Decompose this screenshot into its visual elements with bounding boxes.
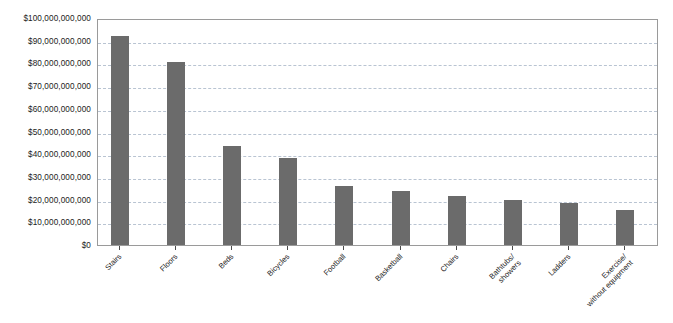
- x-tick: [400, 246, 401, 250]
- x-tick: [343, 246, 344, 250]
- x-tick: [624, 246, 625, 250]
- bar: [279, 158, 297, 245]
- x-tick-label: Football: [322, 252, 348, 278]
- y-tick-label: $100,000,000,000: [23, 15, 91, 23]
- y-axis: $100,000,000,000$90,000,000,000$80,000,0…: [0, 0, 95, 323]
- x-tick: [568, 246, 569, 250]
- y-tick-label: $60,000,000,000: [28, 106, 91, 114]
- bar: [392, 191, 410, 245]
- bar: [167, 62, 185, 245]
- y-tick-label: $90,000,000,000: [28, 38, 91, 46]
- y-tick-label: $20,000,000,000: [28, 196, 91, 204]
- x-tick: [231, 246, 232, 250]
- y-tick-label: $50,000,000,000: [28, 128, 91, 136]
- x-tick-label: Chairs: [438, 252, 460, 274]
- x-tick-label: Floors: [158, 252, 180, 274]
- x-tick-label: Beds: [217, 252, 236, 271]
- bar: [223, 146, 241, 245]
- bar: [616, 210, 634, 245]
- x-tick-label: Stairs: [103, 252, 123, 272]
- x-axis: StairsFloorsBedsBicyclesFootballBasketba…: [97, 246, 658, 323]
- x-tick-label: Exercise/ without equipment: [578, 252, 635, 309]
- bars: [98, 20, 657, 245]
- x-tick-label: Bicycles: [266, 252, 292, 278]
- x-tick-label: Basketball: [373, 252, 404, 283]
- x-tick-label: Ladders: [546, 252, 572, 278]
- x-tick: [512, 246, 513, 250]
- y-tick-label: $0: [82, 242, 91, 250]
- bar: [448, 196, 466, 245]
- y-tick-label: $30,000,000,000: [28, 174, 91, 182]
- y-tick-label: $80,000,000,000: [28, 60, 91, 68]
- bar: [335, 186, 353, 245]
- bar: [504, 200, 522, 245]
- plot-area: [97, 19, 658, 246]
- y-tick-label: $10,000,000,000: [28, 219, 91, 227]
- x-tick: [119, 246, 120, 250]
- y-tick-label: $70,000,000,000: [28, 83, 91, 91]
- bar-chart: $100,000,000,000$90,000,000,000$80,000,0…: [0, 0, 673, 323]
- x-tick: [175, 246, 176, 250]
- x-tick-label: Bathtubs/ showers: [487, 252, 523, 288]
- x-tick: [456, 246, 457, 250]
- y-tick-label: $40,000,000,000: [28, 151, 91, 159]
- bar: [111, 36, 129, 245]
- x-tick: [287, 246, 288, 250]
- bar: [560, 203, 578, 245]
